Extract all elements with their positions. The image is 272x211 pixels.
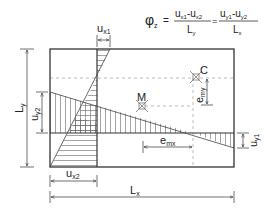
uy2-label: uy2 [28,107,42,121]
lx-label: Lx [130,184,140,197]
ly-label: Ly [13,103,27,113]
ux2-label: ux2 [66,167,80,180]
emx-label: emx [160,134,176,147]
svg-text:Ly: Ly [187,24,196,36]
uy1-label: uy1 [247,133,261,147]
diagram-canvas: C M ux1 ux2 [0,0,272,211]
emy-label: emy [193,87,207,103]
point-c-label: C [200,64,208,76]
svg-text:Lx: Lx [233,24,242,36]
ux1-label: ux1 [97,22,111,35]
point-m-label: M [137,91,146,103]
svg-text:φz: φz [145,12,158,29]
rotation-formula: φz = ux1-ux2 Ly = uy1-uy2 Lx [145,8,258,36]
svg-text:=: = [163,15,169,26]
svg-text:ux1-ux2: ux1-ux2 [175,8,203,20]
svg-text:uy1-uy2: uy1-uy2 [220,8,248,20]
svg-text:=: = [212,16,217,26]
